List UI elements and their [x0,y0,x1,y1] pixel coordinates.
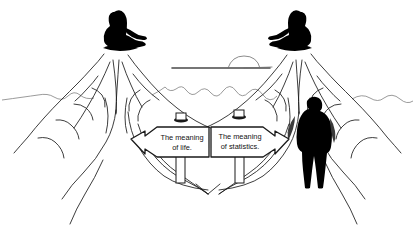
signpost-left-post [176,155,185,183]
signpost-right-line2: of statistics. [221,142,260,151]
signpost-right-post [235,155,244,183]
cartoon-image: The meaning of life. The meaning of stat… [0,0,415,239]
signpost-right-line1: The meaning [218,132,261,141]
scene-illustration: The meaning of life. The meaning of stat… [0,0,415,239]
background [0,0,415,239]
signpost-left-cap-box [176,113,186,120]
signpost-left-line2: of life. [172,143,192,152]
signpost-left-line1: The meaning [160,133,203,142]
signpost-right-cap-box [234,110,244,117]
